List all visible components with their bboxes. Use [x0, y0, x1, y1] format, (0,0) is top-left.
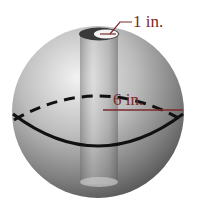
sphere-diagram: 1 in. 6 in.: [0, 0, 197, 200]
sphere-radius-label: 6 in.: [113, 90, 143, 110]
hole-radius-label: 1 in.: [133, 12, 163, 32]
sphere-drawing: [0, 0, 197, 200]
cylinder-bottom: [80, 177, 118, 187]
